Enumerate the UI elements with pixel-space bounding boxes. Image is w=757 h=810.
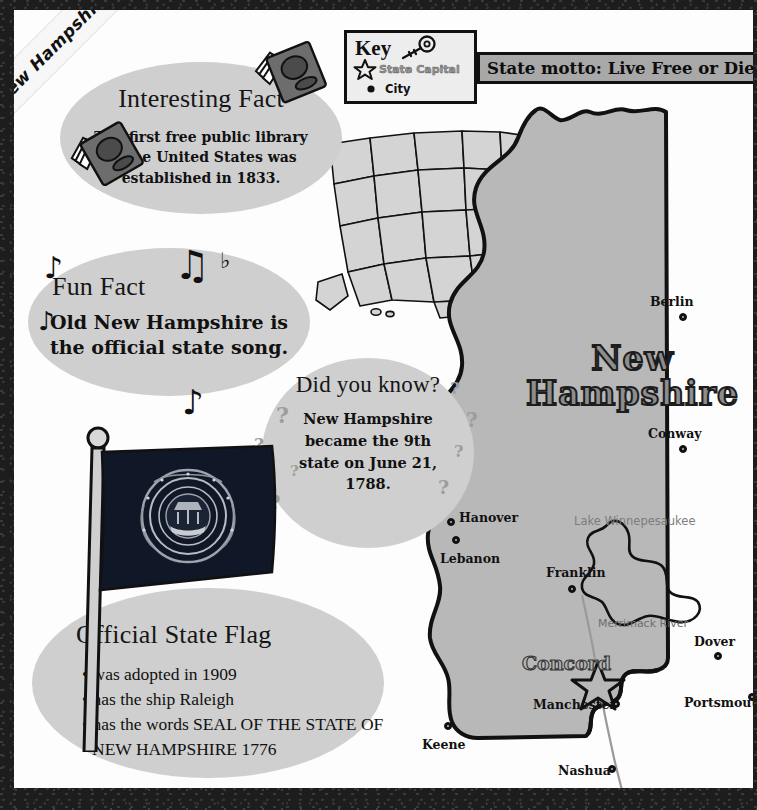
- key-row-city: City: [365, 82, 474, 96]
- city-label: Nashua: [558, 763, 611, 778]
- state-motto-banner: State motto: Live Free or Die: [477, 52, 753, 84]
- city-label: Conway: [648, 426, 702, 441]
- music-note-icon: ♪: [38, 306, 55, 336]
- dot-icon: [365, 83, 377, 95]
- key-header: Key: [347, 33, 474, 61]
- lake-label: Lake Winnepesaukee: [574, 514, 696, 528]
- city-dot-icon: [612, 700, 620, 708]
- city-dot-icon: [568, 585, 576, 593]
- fun-fact-body: Old New Hampshire is the official state …: [28, 310, 310, 359]
- city-dot-icon: [444, 722, 452, 730]
- city-label: Lebanon: [440, 551, 500, 566]
- city-label: Berlin: [650, 294, 694, 309]
- key-label-city: City: [385, 82, 410, 96]
- capital-label: Concord: [522, 652, 611, 674]
- city-dot-icon: [452, 536, 460, 544]
- poster-root: New Hampshire Lake Winnepesaukee Merrima…: [0, 0, 757, 810]
- book-icon: [250, 36, 334, 114]
- city-label: Dover: [694, 634, 735, 649]
- did-you-know-title: Did you know?: [262, 372, 474, 398]
- star-icon: [353, 58, 377, 81]
- question-mark-icon: ?: [438, 476, 449, 498]
- city-dot-icon: [679, 445, 687, 453]
- city-dot-icon: [714, 652, 722, 660]
- flagpole: [84, 448, 104, 752]
- river-label: Merrimack River: [598, 617, 688, 630]
- city-label: Franklin: [546, 565, 606, 580]
- state-motto-text: State motto: Live Free or Die: [487, 59, 753, 78]
- city-label: Keene: [422, 737, 466, 752]
- city-dot-icon: [608, 765, 616, 773]
- map-key-box: Key State Capital City: [344, 30, 477, 104]
- music-note-icon: ♭: [220, 248, 230, 273]
- music-note-icon: ♫: [174, 242, 210, 288]
- city-label: Hanover: [459, 510, 518, 525]
- flagpole-finial: [88, 428, 108, 448]
- question-mark-icon: ?: [450, 378, 460, 398]
- book-icon: [66, 118, 150, 196]
- state-flag-graphic: [76, 422, 306, 752]
- key-title: Key: [355, 36, 391, 61]
- city-label: Portsmouth: [684, 695, 753, 710]
- key-row-state-capital: State Capital: [353, 58, 474, 81]
- key-icon: [397, 35, 439, 61]
- music-note-icon: ♪: [182, 382, 204, 422]
- question-mark-icon: ?: [454, 442, 463, 461]
- city-label: Manchester: [533, 697, 616, 712]
- key-label-state-capital: State Capital: [379, 63, 460, 76]
- city-dot-icon: [748, 693, 753, 701]
- city-dot-icon: [447, 518, 455, 526]
- map-state-name: New Hampshire: [526, 342, 739, 411]
- question-mark-icon: ?: [466, 408, 478, 432]
- music-note-icon: ♪: [44, 250, 63, 285]
- poster-page: New Hampshire Lake Winnepesaukee Merrima…: [14, 10, 753, 788]
- city-dot-icon: [679, 313, 687, 321]
